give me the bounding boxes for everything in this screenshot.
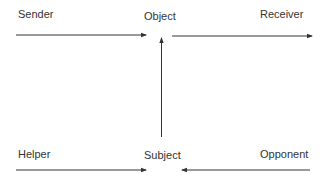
arrows-layer (0, 0, 328, 182)
